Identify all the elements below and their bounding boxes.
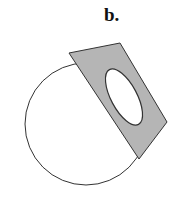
diagram [0,0,181,198]
